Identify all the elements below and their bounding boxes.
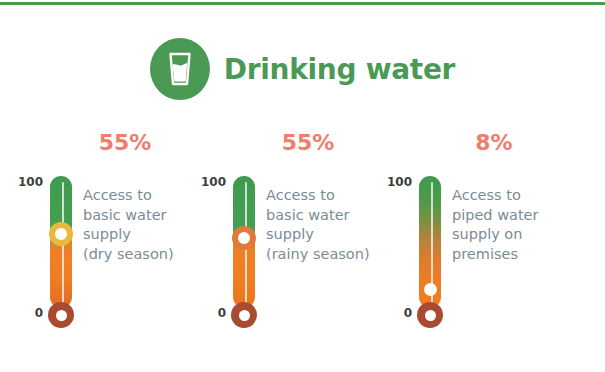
- gauge-desc-line: (rainy season): [266, 245, 384, 265]
- thermometer-tube: [48, 176, 74, 328]
- thermometer-tube: [231, 176, 257, 328]
- gauge-desc-line: supply: [83, 225, 201, 245]
- axis-label-min: 0: [193, 306, 226, 320]
- gauge-desc-line: basic water: [266, 206, 384, 226]
- gauge-description: Access to basic water supply (dry season…: [83, 186, 201, 265]
- gauge-base-bulb: [231, 302, 257, 328]
- gauge-marker: [418, 277, 442, 301]
- gauge-desc-line: supply on: [452, 225, 570, 245]
- gauge-percent-value: 8%: [429, 130, 559, 155]
- gauge-base-bulb: [417, 302, 443, 328]
- gauge-desc-line: Access to: [83, 186, 201, 206]
- gauge-percent-value: 55%: [243, 130, 373, 155]
- axis-label-max: 100: [193, 175, 226, 189]
- top-divider-rule: [0, 2, 605, 5]
- gauge-basic-dry-season: 55% 100 0 Access to basic water supply (…: [10, 130, 200, 345]
- gauge-basic-rainy-season: 55% 100 0 Access to basic water supply (…: [193, 130, 383, 345]
- gauge-marker: [232, 226, 256, 250]
- gauge-desc-line: premises: [452, 245, 570, 265]
- gauge-desc-line: Access to: [266, 186, 384, 206]
- gauge-piped-on-premises: 8% 100 0 Access to piped water supply on…: [379, 130, 569, 345]
- gauge-desc-line: supply: [266, 225, 384, 245]
- gauge-desc-line: piped water: [452, 206, 570, 226]
- gauges-row: 55% 100 0 Access to basic water supply (…: [0, 130, 605, 345]
- gauge-marker: [49, 222, 73, 246]
- gauge-desc-line: Access to: [452, 186, 570, 206]
- page-title: Drinking water: [224, 53, 455, 86]
- gauge-percent-value: 55%: [60, 130, 190, 155]
- drinking-glass-icon: [150, 38, 210, 100]
- gauge-description: Access to piped water supply on premises: [452, 186, 570, 265]
- gauge-desc-line: basic water: [83, 206, 201, 226]
- axis-label-min: 0: [10, 306, 43, 320]
- gauge-description: Access to basic water supply (rainy seas…: [266, 186, 384, 265]
- header: Drinking water: [0, 32, 605, 106]
- axis-label-max: 100: [379, 175, 412, 189]
- axis-label-max: 100: [10, 175, 43, 189]
- axis-label-min: 0: [379, 306, 412, 320]
- gauge-desc-line: (dry season): [83, 245, 201, 265]
- thermometer-tube: [417, 176, 443, 328]
- gauge-base-bulb: [48, 302, 74, 328]
